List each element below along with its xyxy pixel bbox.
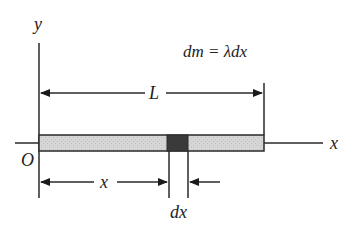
position-label: x (99, 172, 108, 192)
origin-label: O (21, 150, 34, 170)
y-axis-label: y (32, 14, 42, 34)
rod (39, 135, 264, 151)
mass-element (167, 135, 188, 151)
length-label: L (148, 83, 159, 103)
x-axis-label: x (329, 133, 338, 153)
rod-diagram: y x O L dm = λdx x dx (0, 0, 363, 229)
element-width-label: dx (170, 202, 187, 222)
mass-equation: dm = λdx (183, 42, 248, 61)
